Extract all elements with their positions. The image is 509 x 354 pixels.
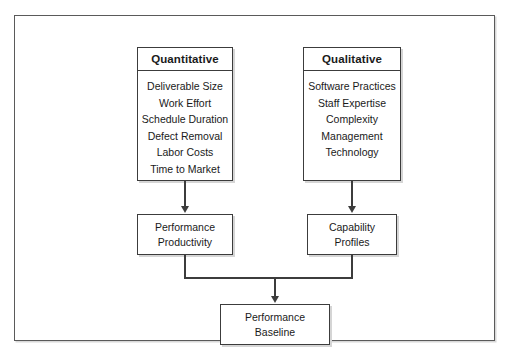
node-qualitative-list: Software Practices Staff Expertise Compl… bbox=[304, 71, 400, 180]
edge-performance-productivity-down bbox=[184, 255, 186, 278]
node-quantitative-list: Deliverable Size Work Effort Schedule Du… bbox=[138, 71, 232, 180]
diagram-canvas: Quantitative Deliverable Size Work Effor… bbox=[0, 0, 509, 354]
node-performance-productivity-label: Performance Productivity bbox=[155, 220, 215, 250]
node-qualitative-header: Qualitative bbox=[304, 48, 400, 71]
edge-quantitative-to-performance-productivity bbox=[184, 181, 186, 207]
list-item: Technology bbox=[325, 144, 378, 161]
diagram-frame: Quantitative Deliverable Size Work Effor… bbox=[14, 15, 495, 341]
edge-capability-profiles-down bbox=[351, 255, 353, 278]
list-item: Management bbox=[321, 128, 382, 145]
arrow-down-icon bbox=[348, 206, 356, 213]
edge-merge-bar bbox=[184, 277, 353, 279]
list-item: Complexity bbox=[326, 111, 378, 128]
arrow-down-icon bbox=[181, 206, 189, 213]
node-performance-baseline-label: Performance Baseline bbox=[245, 310, 305, 340]
list-item: Staff Expertise bbox=[318, 95, 386, 112]
list-item: Work Effort bbox=[159, 95, 211, 112]
node-quantitative: Quantitative Deliverable Size Work Effor… bbox=[137, 47, 233, 181]
node-capability-profiles: Capability Profiles bbox=[307, 214, 397, 255]
edge-merge-to-performance-baseline bbox=[274, 277, 276, 297]
list-item: Time to Market bbox=[150, 161, 220, 178]
node-quantitative-header: Quantitative bbox=[138, 48, 232, 71]
list-item: Schedule Duration bbox=[142, 111, 228, 128]
node-performance-baseline: Performance Baseline bbox=[220, 304, 330, 345]
node-qualitative: Qualitative Software Practices Staff Exp… bbox=[303, 47, 401, 181]
node-capability-profiles-label: Capability Profiles bbox=[329, 220, 375, 250]
list-item: Defect Removal bbox=[148, 128, 223, 145]
edge-qualitative-to-capability-profiles bbox=[351, 181, 353, 207]
list-item: Labor Costs bbox=[157, 144, 214, 161]
node-performance-productivity: Performance Productivity bbox=[137, 214, 233, 255]
list-item: Deliverable Size bbox=[147, 78, 223, 95]
arrow-down-icon bbox=[271, 296, 279, 303]
list-item: Software Practices bbox=[308, 78, 396, 95]
